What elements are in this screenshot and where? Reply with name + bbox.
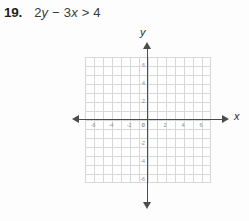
x-axis-right-arrow-icon [222, 115, 229, 123]
x-tick-label: -2 [123, 122, 135, 128]
problem-number: 19. [4, 5, 22, 20]
graph-grid [85, 57, 211, 183]
y-tick-label: -6 [135, 176, 147, 182]
x-tick-label: -6 [87, 122, 99, 128]
x-axis-label: x [234, 110, 240, 122]
x-tick-label: 4 [177, 122, 189, 128]
expression-token: − 3 [48, 5, 71, 20]
expression-token: > 4 [78, 5, 101, 20]
x-tick-label: 6 [195, 122, 207, 128]
coordinate-graph: x y -6 -4 -2 0 2 4 6 6 4 2 0 -2 -4 -6 [76, 30, 249, 221]
x-axis-left-arrow-icon [72, 115, 79, 123]
y-tick-label: 0 [135, 122, 147, 128]
x-tick-label: 2 [159, 122, 171, 128]
y-tick-label: -2 [135, 140, 147, 146]
problem-expression: 2y − 3x > 4 [34, 5, 101, 20]
expression-token: 2 [34, 5, 41, 20]
expression-variable-x: x [71, 5, 78, 20]
y-tick-label: 2 [135, 98, 147, 104]
y-tick-label: -4 [135, 158, 147, 164]
y-axis-up-arrow-icon [143, 42, 151, 49]
y-tick-label: 4 [135, 80, 147, 86]
y-axis-down-arrow-icon [143, 202, 151, 209]
problem-header: 19. 2y − 3x > 4 [4, 5, 101, 20]
y-tick-label: 6 [135, 62, 147, 68]
y-axis-label: y [140, 26, 146, 38]
x-axis-line [76, 119, 224, 120]
x-tick-label: -4 [105, 122, 117, 128]
